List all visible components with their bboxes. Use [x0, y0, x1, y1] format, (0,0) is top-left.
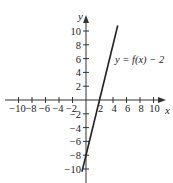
y-axis-label: y — [77, 10, 83, 22]
function-graph: −10−8−6−4−2246810−10−8−6−4−2246810 x y y… — [0, 0, 173, 183]
x-tick-label: −8 — [25, 103, 36, 114]
curve-label: y = f(x) − 2 — [114, 54, 165, 66]
y-tick-label: −10 — [65, 164, 81, 175]
data-series — [82, 25, 118, 171]
x-tick-label: 4 — [111, 103, 117, 114]
x-tick-label: 10 — [149, 103, 160, 114]
x-tick-label: −4 — [52, 103, 64, 114]
y-axis-arrow-icon — [83, 15, 89, 23]
y-tick-label: 2 — [76, 81, 81, 92]
x-axis-label: x — [164, 104, 170, 116]
y-tick-label: 8 — [76, 40, 81, 51]
x-tick-label: −10 — [9, 103, 25, 114]
y-tick-label: −2 — [70, 109, 81, 120]
x-tick-label: 8 — [138, 103, 143, 114]
x-tick-label: 6 — [125, 103, 130, 114]
y-tick-label: 6 — [76, 54, 81, 65]
x-tick-label: −6 — [39, 103, 50, 114]
y-tick-label: −6 — [70, 136, 81, 147]
y-tick-label: −8 — [70, 150, 81, 161]
y-tick-label: −4 — [70, 123, 82, 134]
function-line — [82, 25, 118, 171]
y-tick-label: 4 — [76, 67, 82, 78]
y-tick-label: 10 — [71, 26, 82, 37]
